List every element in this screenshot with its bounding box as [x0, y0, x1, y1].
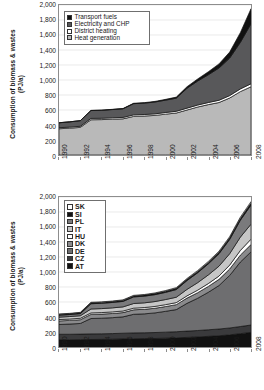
x-tick-label: 2006: [233, 144, 240, 159]
x-tick-label: 1992: [83, 144, 90, 159]
y-axis-labels-bottom: 02004006008001,0001,2001,4001,6001,8002,…: [22, 196, 56, 348]
chart-bottom: Consumption of biomass & wastes (PJ/a) 0…: [0, 196, 264, 388]
x-tick: [187, 157, 188, 160]
legend-label: PL: [75, 218, 84, 225]
x-tick-label: 1994: [104, 144, 111, 159]
x-tick: [58, 349, 59, 352]
x-tick-label: 2000: [169, 144, 176, 159]
x-tick-label: 2008: [255, 144, 262, 159]
legend-swatch-icon: [67, 22, 72, 27]
y-tick-label: 800: [45, 92, 56, 99]
x-tick-label: 2008: [255, 336, 262, 351]
legend-item: PL: [67, 218, 102, 225]
x-tick: [166, 349, 167, 352]
legend-label: AT: [75, 263, 84, 270]
legend-item: SK: [67, 203, 102, 210]
legend-swatch-icon: [67, 256, 73, 262]
legend-swatch-icon: [67, 212, 73, 218]
legend-label: CZ: [75, 255, 84, 262]
y-tick-label: 1,400: [39, 46, 56, 53]
y-tick-label: 1,000: [39, 269, 56, 276]
x-tick-label: 1996: [126, 144, 133, 159]
legend-label: HU: [75, 233, 85, 240]
x-tick-label: 1994: [104, 336, 111, 351]
legend-item: DE: [67, 248, 102, 255]
legend-swatch-icon: [67, 263, 73, 269]
chart-top: Consumption of biomass & wastes (PJ/a) 0…: [0, 4, 264, 192]
y-tick-label: 800: [45, 284, 56, 291]
x-tick: [101, 157, 102, 160]
x-axis-labels-top: 1990199219941996199820002002200420062008: [58, 157, 252, 191]
x-tick: [251, 349, 252, 352]
x-tick-label: 1992: [83, 336, 90, 351]
x-tick: [58, 157, 59, 160]
legend-swatch-icon: [67, 248, 73, 254]
legend-label: DK: [75, 240, 85, 247]
x-tick-label: 1998: [147, 336, 154, 351]
y-tick-label: 0: [52, 345, 56, 352]
x-tick-label: 1996: [126, 336, 133, 351]
y-tick-label: 1,600: [39, 223, 56, 230]
x-tick-label: 2004: [212, 144, 219, 159]
legend-item: IT: [67, 226, 102, 233]
legend-swatch-icon: [67, 226, 73, 232]
x-tick-label: 2002: [190, 144, 197, 159]
legend-label: DE: [75, 248, 85, 255]
legend-swatch-icon: [67, 15, 72, 20]
y-tick-label: 400: [45, 314, 56, 321]
legend-label: SK: [75, 203, 85, 210]
figure-page: Consumption of biomass & wastes (PJ/a) 0…: [0, 0, 264, 390]
x-axis-labels-bottom: 1990199219941996199820002002200420062008: [58, 349, 252, 383]
legend-top: Transport fuelsElectricity and CHPDistri…: [64, 11, 150, 45]
x-tick-label: 2006: [233, 336, 240, 351]
x-tick-label: 1990: [61, 144, 68, 159]
y-tick-label: 1,800: [39, 208, 56, 215]
x-tick: [166, 157, 167, 160]
x-tick-label: 2004: [212, 336, 219, 351]
x-tick: [209, 157, 210, 160]
legend-swatch-icon: [67, 219, 73, 225]
legend-swatch-icon: [67, 241, 73, 247]
x-tick-label: 1990: [61, 336, 68, 351]
legend-item: CZ: [67, 255, 102, 262]
x-tick: [230, 157, 231, 160]
legend-swatch-icon: [67, 234, 73, 240]
y-tick-label: 1,400: [39, 238, 56, 245]
x-tick: [251, 157, 252, 160]
x-tick: [101, 349, 102, 352]
y-tick-label: 400: [45, 122, 56, 129]
y-tick-label: 1,200: [39, 253, 56, 260]
y-tick-label: 600: [45, 299, 56, 306]
y-tick-label: 600: [45, 107, 56, 114]
x-tick: [144, 157, 145, 160]
x-tick: [80, 157, 81, 160]
x-tick-label: 2002: [190, 336, 197, 351]
y-tick-label: 200: [45, 137, 56, 144]
legend-swatch-icon: [67, 204, 73, 210]
y-tick-label: 1,800: [39, 16, 56, 23]
legend-item: AT: [67, 263, 102, 270]
x-tick: [209, 349, 210, 352]
y-tick-label: 1,600: [39, 31, 56, 38]
x-tick: [187, 349, 188, 352]
x-tick: [144, 349, 145, 352]
x-tick-label: 1998: [147, 144, 154, 159]
y-tick-label: 1,000: [39, 77, 56, 84]
y-tick-label: 2,000: [39, 193, 56, 200]
legend-item: Heat generation: [67, 35, 146, 41]
x-tick: [230, 349, 231, 352]
legend-bottom: SKSIPLITHUDKDECZAT: [64, 200, 106, 273]
legend-label: Heat generation: [75, 35, 120, 41]
legend-item: HU: [67, 233, 102, 240]
y-tick-label: 0: [52, 153, 56, 160]
legend-item: DK: [67, 240, 102, 247]
x-tick: [123, 349, 124, 352]
legend-item: SI: [67, 211, 102, 218]
x-tick-label: 2000: [169, 336, 176, 351]
x-tick: [123, 157, 124, 160]
y-tick-label: 2,000: [39, 1, 56, 8]
y-tick-label: 1,200: [39, 61, 56, 68]
y-axis-labels-top: 02004006008001,0001,2001,4001,6001,8002,…: [22, 4, 56, 156]
legend-swatch-icon: [67, 29, 72, 34]
x-tick: [80, 349, 81, 352]
